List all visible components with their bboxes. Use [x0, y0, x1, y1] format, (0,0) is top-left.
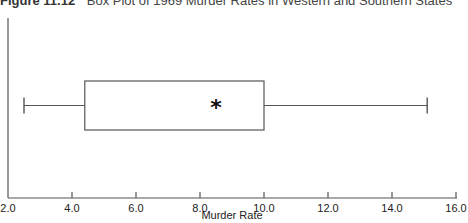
x-tick-label: 16.0	[445, 202, 466, 214]
x-tick-label: 6.0	[128, 202, 143, 214]
interquartile-box	[85, 81, 264, 130]
x-tick-label: 2.0	[0, 202, 15, 214]
box-plot-chart: 2.04.06.08.010.012.014.016.0 * Murder Ra…	[0, 0, 468, 223]
box-plot: *	[24, 81, 427, 130]
x-axis-label: Murder Rate	[201, 209, 262, 221]
x-tick-label: 12.0	[317, 202, 338, 214]
x-tick-label: 14.0	[381, 202, 402, 214]
x-tick-label: 4.0	[64, 202, 79, 214]
mean-marker-icon: *	[210, 95, 222, 120]
